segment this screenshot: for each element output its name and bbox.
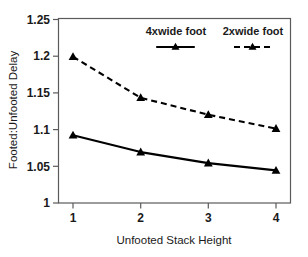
y-tick-label-1.25: 1.25 [27,13,51,27]
series-2xwide-foot [69,52,281,132]
marker-2xwide-1 [69,52,78,60]
series-4xwide-foot-line [73,135,276,170]
x-tick-label-4: 4 [273,211,280,225]
series-4xwide-foot [69,131,281,174]
x-tick-label-1: 1 [70,211,77,225]
series-2xwide-foot-line [73,57,276,129]
chart-figure: 1 1.05 1.1 1.15 1.2 1.25 1 2 3 4 Unfoote… [0,0,308,257]
y-axis-title: Footed:Unfooted Delay [7,51,19,170]
chart-legend: 4xwide foot 2xwide foot [146,25,284,50]
legend-label-4xwide: 4xwide foot [146,25,207,37]
x-tick-label-2: 2 [137,211,144,225]
marker-4xwide-1 [69,131,78,139]
x-axis-ticks [73,203,276,209]
x-axis-title: Unfooted Stack Height [116,234,232,246]
line-chart: 1 1.05 1.1 1.15 1.2 1.25 1 2 3 4 Unfoote… [0,0,308,257]
legend-label-2xwide: 2xwide foot [223,25,284,37]
y-tick-label-1.05: 1.05 [27,160,51,174]
y-tick-label-1.15: 1.15 [27,86,51,100]
x-tick-label-3: 3 [205,211,212,225]
y-tick-label-1.1: 1.1 [33,123,50,137]
y-tick-label-1: 1 [43,196,50,210]
y-tick-label-1.2: 1.2 [33,49,50,63]
y-axis-ticks [53,20,59,204]
marker-2xwide-2 [136,93,145,101]
